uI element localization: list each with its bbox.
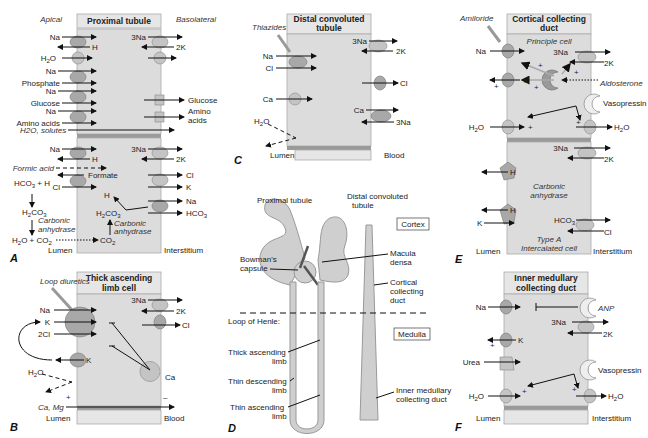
vasopressin-label: Vasopressin	[598, 366, 641, 375]
na-k-atpase	[152, 299, 168, 311]
ion-label: 2K	[396, 47, 406, 56]
ion-label: acids	[188, 116, 207, 125]
na-h-exchanger	[70, 36, 86, 48]
panel-f-title: collecting duct	[516, 283, 576, 293]
lumen-reaction-3: H2O + CO2	[12, 236, 52, 246]
paracellular-label: H2O, solutes	[20, 126, 66, 135]
medulla-label: Medulla	[398, 330, 427, 339]
drug-label: Thiazides	[252, 23, 286, 32]
ion-label: 3Na	[553, 144, 568, 153]
ncc-cotransporter	[289, 56, 307, 68]
ion-label: Cl	[400, 79, 408, 88]
na-k-atpase	[578, 321, 594, 333]
ion-label: H	[92, 43, 98, 52]
distal-label: tubule	[352, 201, 374, 210]
ion-label: Na	[476, 47, 487, 56]
thin-descending-label: Thin descending	[228, 377, 287, 386]
ion-label: H2O	[614, 123, 629, 133]
macula-densa-label: Macula	[390, 249, 416, 258]
ion-label: Na	[186, 197, 197, 206]
ion-label: Na	[46, 107, 57, 116]
ion-label: K	[477, 219, 483, 228]
ion-label: H	[92, 155, 98, 164]
panel-letter: B	[10, 421, 18, 433]
panel-letter: A	[9, 252, 18, 264]
ion-label: H2O	[469, 392, 484, 402]
urea-transporter	[500, 357, 514, 370]
panel-e-title: duct	[540, 23, 558, 33]
ion-label: 2K	[604, 155, 614, 164]
ion-label: K	[186, 183, 192, 192]
ion-label: Ca	[263, 95, 274, 104]
clc-channel	[154, 315, 166, 329]
panel-a-title: Proximal tubule	[87, 16, 151, 26]
ion-label: 3Na	[352, 37, 367, 46]
panel-letter: C	[234, 154, 243, 166]
panel-f-inner-medullary-collecting-duct: Inner medullary collecting duct Na ANP 3…	[455, 272, 641, 433]
panel-d-nephron: Cortex Medulla Proximal tubule Distal co…	[228, 192, 451, 434]
plus-sign: +	[576, 118, 581, 127]
ion-label: K	[524, 76, 530, 85]
ccd-label: Cortical	[390, 278, 417, 287]
drug-label: Amiloride	[459, 14, 494, 23]
bowman-label: Bowman's	[240, 255, 277, 264]
cl-formate-exchanger	[70, 175, 86, 187]
ion-label: H	[104, 191, 110, 200]
ion-label: Ca	[354, 106, 365, 115]
loop-of-henle-label: Loop of Henle:	[228, 317, 280, 326]
kcl-cotransporter	[152, 174, 168, 186]
plus-sign: +	[494, 82, 499, 91]
cortex-label: Cortex	[401, 220, 425, 229]
ion-label: Cl	[186, 171, 194, 180]
principal-cell-label: Principle cell	[527, 37, 572, 46]
ion-label: H2O	[28, 368, 43, 378]
charge-plus: +	[66, 393, 71, 402]
ion-label: K	[86, 356, 92, 365]
ion-label: Na	[40, 306, 51, 315]
na-amino-acid-cotransporter	[70, 111, 86, 123]
proximal-tubule-label: Proximal tubule	[257, 196, 313, 205]
thin-ascending-label: Thin ascending	[230, 403, 284, 412]
ion-label: Na	[46, 67, 57, 76]
ion-label: Na	[46, 87, 57, 96]
drug-label: Loop diuretics	[40, 277, 90, 286]
plus-sign: +	[538, 61, 543, 70]
panel-c-title: tubule	[316, 23, 342, 33]
panel-b-title: Thick ascending	[86, 273, 153, 283]
paracellular-label: Ca, Mg	[38, 403, 64, 412]
macula-densa-label: densa	[390, 258, 412, 267]
ion-label: Na	[263, 52, 274, 61]
panel-a-proximal-tubule: Proximal tubule Apical Basolateral Na	[9, 14, 218, 264]
na-k-atpase	[578, 51, 596, 63]
lumen-label: Lumen	[270, 151, 294, 160]
ion-label: 3Na	[396, 118, 411, 127]
ion-label: Na	[476, 303, 487, 312]
panel-b-thick-ascending-limb: Thick ascending limb cell Loop diuretics…	[10, 272, 190, 433]
ion-label: Cl	[182, 321, 190, 330]
na-k-atpase	[152, 36, 168, 48]
ion-label: H2O	[41, 54, 56, 64]
ion-label: 3Na	[131, 296, 146, 305]
carbonic-anhydrase-cell: anhydrase	[114, 227, 152, 236]
ion-label: Formate	[88, 171, 118, 180]
panel-e-cortical-collecting-duct: Cortical collecting duct Amiloride Princ…	[455, 14, 646, 265]
distal-label: Distal convoluted	[347, 192, 408, 201]
interstitium-label: Interstitium	[164, 246, 203, 255]
interstitium-label: Interstitium	[593, 247, 632, 256]
carbonic-anhydrase-label: Carbonic	[533, 182, 565, 191]
ion-label: Urea	[463, 358, 481, 367]
distal-tubule-shape	[318, 217, 349, 282]
ion-label: 2Cl	[38, 330, 50, 339]
thin-ascending-label: limb	[272, 412, 287, 421]
imcd-label: Inner medullary	[396, 386, 451, 395]
imcd-label: collecting duct	[396, 395, 447, 404]
na-hco3-cotransporter	[152, 200, 168, 212]
ion-label: 3Na	[131, 145, 146, 154]
lumen-label: Lumen	[476, 414, 500, 423]
ion-label: 3Na	[553, 48, 568, 57]
lumen-label: Lumen	[46, 414, 70, 423]
ion-label: Amino	[188, 107, 211, 116]
ion-label: H	[510, 206, 516, 215]
ion-label: 2K	[176, 43, 186, 52]
panel-letter: F	[455, 421, 462, 433]
